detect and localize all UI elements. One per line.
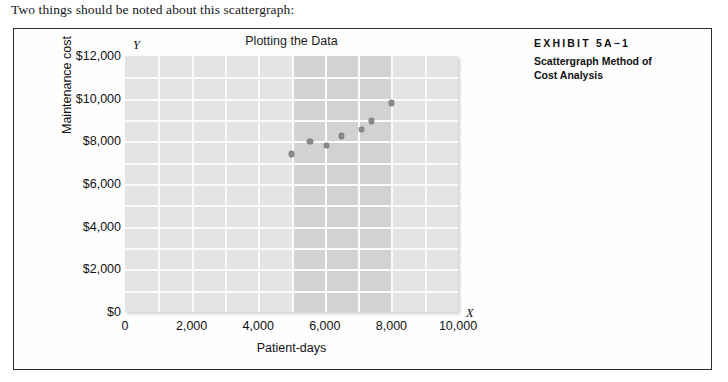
gridline-horizontal [125, 248, 458, 250]
x-tick-label: 8,000 [376, 319, 407, 333]
x-tick-label: 6,000 [309, 319, 340, 333]
exhibit-number: EXHIBIT 5A−1 [534, 37, 704, 49]
x-tick-label: 4,000 [243, 319, 274, 333]
y-axis-letter: Y [133, 38, 140, 53]
gridline-horizontal [125, 141, 458, 143]
gridline-horizontal [125, 205, 458, 207]
y-tick-label: $4,000 [51, 220, 121, 234]
exhibit-caption: EXHIBIT 5A−1 Scattergraph Method of Cost… [534, 37, 704, 82]
x-axis-tick-labels: 02,0004,0006,0008,00010,000 [125, 319, 458, 339]
y-tick-label: $8,000 [51, 134, 121, 148]
gridline-horizontal [125, 163, 458, 165]
plot-area [125, 56, 458, 312]
gridline-horizontal [125, 77, 458, 79]
gridline-horizontal [125, 120, 458, 122]
gridline-horizontal [125, 99, 458, 101]
intro-paragraph: Two things should be noted about this sc… [11, 2, 294, 18]
gridline-horizontal [125, 227, 458, 229]
chart-title: Plotting the Data [125, 34, 458, 48]
y-tick-label: $2,000 [51, 262, 121, 276]
data-point [369, 118, 375, 124]
x-axis-title: Patient-days [125, 341, 458, 355]
y-axis-tick-labels: $0$2,000$4,000$6,000$8,000$10,000$12,000 [47, 56, 121, 312]
y-tick-label: $0 [51, 305, 121, 319]
x-tick-label: 2,000 [176, 319, 207, 333]
scattergraph-chart: Plotting the Data Y X $0$2,000$4,000$6,0… [14, 29, 484, 371]
y-tick-label: $6,000 [51, 177, 121, 191]
gridline-horizontal [125, 291, 458, 293]
gridline-horizontal [125, 269, 458, 271]
x-tick-label: 10,000 [439, 319, 477, 333]
exhibit-subtitle: Scattergraph Method of Cost Analysis [534, 54, 654, 82]
y-axis-title: Maintenance cost [60, 36, 74, 134]
data-point [289, 151, 295, 157]
exhibit-frame: Plotting the Data Y X $0$2,000$4,000$6,0… [13, 28, 712, 370]
x-tick-label: 0 [122, 319, 129, 333]
data-point [389, 100, 395, 106]
gridline-horizontal [125, 184, 458, 186]
data-point [307, 139, 313, 145]
data-point [339, 133, 345, 139]
